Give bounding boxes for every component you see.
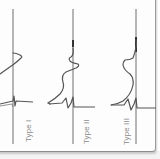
label-type-1: Type I	[24, 120, 33, 142]
waveform-type-2	[48, 48, 79, 104]
qrs-complex-type-2	[49, 97, 95, 108]
panel-type-3	[111, 9, 156, 144]
qrs-complex-type-1	[0, 96, 33, 106]
waveform-type-1	[0, 53, 22, 74]
label-type-3: Type III	[122, 118, 131, 145]
label-type-2: Type II	[82, 119, 91, 144]
waveform-type-3	[111, 40, 137, 105]
